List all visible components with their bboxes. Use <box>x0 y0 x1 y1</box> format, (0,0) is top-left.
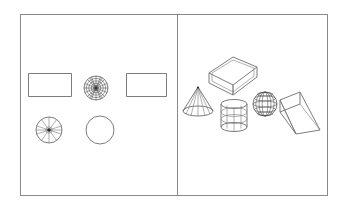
wedge <box>280 92 320 134</box>
cylinder <box>221 100 247 132</box>
dense-spoked-wheel <box>84 76 108 100</box>
right-panel <box>183 57 320 134</box>
spoked-wheel <box>36 117 62 143</box>
open-box <box>209 57 257 95</box>
outer-frame <box>21 15 328 196</box>
drawing-surface <box>0 0 344 210</box>
circle <box>86 116 114 144</box>
cone <box>183 86 213 116</box>
sphere <box>253 92 277 116</box>
figure-canvas <box>0 0 344 210</box>
rectangle-right <box>127 74 167 97</box>
rectangle-left <box>29 74 72 97</box>
left-panel <box>29 74 167 145</box>
